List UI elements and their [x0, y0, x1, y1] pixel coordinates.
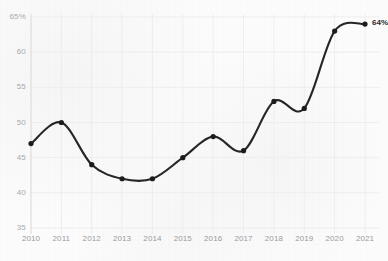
data-point-2016[interactable]	[211, 134, 216, 139]
y-axis-tick-label: 35	[0, 223, 26, 232]
data-point-2015[interactable]	[180, 155, 185, 160]
y-axis-tick-label: 50	[0, 118, 26, 127]
data-point-2020[interactable]	[332, 28, 337, 33]
x-axis-tick-label-2017: 2017	[227, 234, 261, 243]
data-point-2017[interactable]	[241, 148, 246, 153]
x-axis-tick-label-2020: 2020	[318, 234, 352, 243]
x-axis-tick-label-2014: 2014	[135, 234, 169, 243]
x-axis-tick-label-2015: 2015	[166, 234, 200, 243]
x-axis-tick-label-2013: 2013	[105, 234, 139, 243]
x-axis-tick-label-2018: 2018	[257, 234, 291, 243]
end-value-label: 64%	[372, 18, 388, 27]
y-axis-tick-label: 40	[0, 188, 26, 197]
data-point-2010[interactable]	[28, 141, 33, 146]
data-point-2018[interactable]	[271, 99, 276, 104]
y-axis-tick-label: 60	[0, 47, 26, 56]
x-axis-tick-label-2010: 2010	[14, 234, 48, 243]
x-axis-tick-label-2021: 2021	[348, 234, 382, 243]
data-point-2021[interactable]	[362, 21, 367, 26]
x-axis-tick-label-2016: 2016	[196, 234, 230, 243]
data-point-2012[interactable]	[89, 162, 94, 167]
data-point-2011[interactable]	[59, 120, 64, 125]
data-point-2013[interactable]	[119, 176, 124, 181]
x-axis-tick-label-2012: 2012	[75, 234, 109, 243]
vertical-gridlines	[31, 14, 365, 234]
x-axis-tick-label-2011: 2011	[44, 234, 78, 243]
data-point-2014[interactable]	[150, 176, 155, 181]
x-axis-tick-label-2019: 2019	[287, 234, 321, 243]
data-point-2019[interactable]	[302, 106, 307, 111]
y-axis-tick-label: 55	[0, 82, 26, 91]
y-axis-tick-label: 65%	[0, 12, 26, 21]
y-axis-tick-label: 45	[0, 153, 26, 162]
